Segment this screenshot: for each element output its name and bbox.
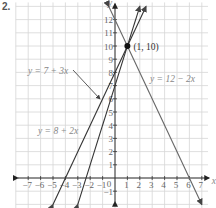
svg-text:4: 4: [161, 180, 166, 190]
svg-text:4: 4: [109, 121, 114, 131]
svg-text:5: 5: [109, 108, 114, 118]
line-3: [109, 6, 202, 204]
svg-text:6: 6: [186, 180, 191, 190]
svg-text:(1, 10): (1, 10): [133, 42, 158, 53]
svg-text:y = 12 − 2x: y = 12 − 2x: [149, 74, 196, 84]
svg-text:1: 1: [109, 160, 114, 170]
svg-text:−5: −5: [47, 180, 57, 190]
svg-text:1: 1: [124, 180, 129, 190]
coordinate-plane: −7−6−5−4−3−2−101234567−1123456789101112x…: [0, 0, 216, 208]
svg-text:−3: −3: [72, 180, 82, 190]
svg-text:10: 10: [104, 42, 114, 52]
svg-text:−4: −4: [60, 180, 70, 190]
svg-text:5: 5: [174, 180, 179, 190]
svg-text:2: 2: [137, 180, 142, 190]
svg-text:−1: −1: [103, 187, 113, 197]
svg-text:y = 8 + 2x: y = 8 + 2x: [37, 126, 79, 136]
svg-text:y: y: [107, 0, 113, 8]
svg-text:−2: −2: [84, 180, 94, 190]
svg-text:−7: −7: [22, 180, 32, 190]
svg-text:x: x: [211, 176, 216, 186]
svg-text:−6: −6: [35, 180, 45, 190]
svg-text:3: 3: [149, 180, 154, 190]
svg-text:11: 11: [104, 28, 113, 38]
svg-text:3: 3: [109, 134, 114, 144]
line-2: [53, 6, 146, 204]
svg-text:9: 9: [109, 55, 114, 65]
axes: [18, 4, 209, 202]
svg-text:7: 7: [199, 180, 204, 190]
svg-text:y = 7 + 3x: y = 7 + 3x: [27, 66, 69, 76]
svg-text:12: 12: [104, 15, 113, 25]
intersection-point: [124, 43, 130, 49]
svg-text:7: 7: [109, 81, 114, 91]
svg-text:2: 2: [109, 147, 114, 157]
